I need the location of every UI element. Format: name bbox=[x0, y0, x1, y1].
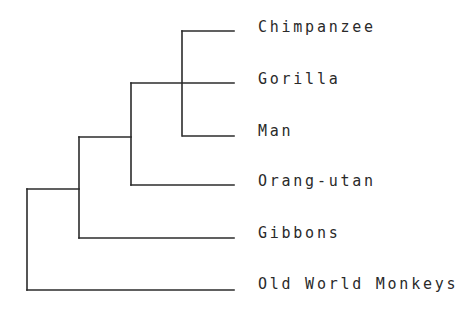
leaf-label-old-world-monkeys: Old World Monkeys bbox=[258, 276, 458, 292]
leaf-label-gibbons: Gibbons bbox=[258, 225, 340, 241]
leaf-label-orang-utan: Orang-utan bbox=[258, 173, 376, 189]
leaf-label-chimpanzee: Chimpanzee bbox=[258, 19, 376, 35]
tree-branches bbox=[0, 0, 462, 309]
leaf-label-man: Man bbox=[258, 123, 293, 139]
phylogenetic-tree-diagram: Chimpanzee Gorilla Man Orang-utan Gibbon… bbox=[0, 0, 462, 309]
leaf-label-gorilla: Gorilla bbox=[258, 71, 340, 87]
